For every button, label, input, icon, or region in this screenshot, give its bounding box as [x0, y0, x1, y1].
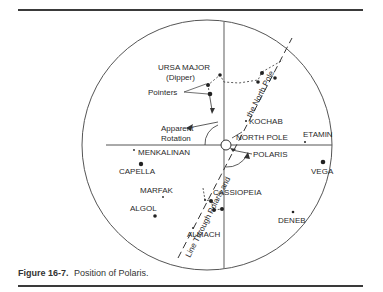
rotation-arrow-upper: [193, 122, 218, 127]
apparent-label: Apparent: [161, 124, 194, 133]
star-mizar: [260, 71, 264, 75]
etamin-label: ETAMIN: [303, 130, 333, 139]
north-pole-label: NORTH POLE: [236, 133, 288, 142]
polaris-diagram: Line Through Polaris and the North Pole …: [0, 0, 383, 292]
rotation-arc-upper: [205, 125, 218, 145]
rotation-label: Rotation: [161, 134, 191, 143]
star-deneb: [292, 211, 295, 214]
figure-number: Figure 16-7.: [18, 268, 69, 278]
star-menkalinan: [133, 149, 135, 151]
star-almach: [192, 227, 194, 229]
ursa-major-constellation: [206, 60, 283, 114]
figure-caption-text: Position of Polaris.: [74, 268, 149, 278]
rotation-arc-lower: [226, 155, 247, 167]
pointers-line-1: [184, 84, 206, 92]
cassiopeia-label: CASSIOPEIA: [213, 188, 262, 197]
menkalinan-label: MENKALINAN: [138, 148, 190, 157]
marfak-label: MARFAK: [140, 186, 174, 195]
kochab-label: KOCHAB: [249, 117, 283, 126]
star-kochab: [245, 120, 247, 122]
star-algol: [153, 214, 157, 218]
pointers-label: Pointers: [148, 88, 177, 97]
capella-label: CAPELLA: [119, 167, 156, 176]
deneb-label: DENEB: [278, 216, 306, 225]
star-capella: [139, 162, 143, 166]
line-label-upper: the North Pole: [245, 69, 276, 119]
algol-label: ALGOL: [130, 204, 157, 213]
figure-caption: Figure 16-7. Position of Polaris.: [18, 268, 149, 278]
star-marfak: [162, 196, 164, 198]
almach-label: ALMACH: [187, 230, 221, 239]
north-pole-marker: [221, 140, 231, 150]
polaris-label: POLARIS: [253, 150, 288, 159]
star-vega: [321, 160, 326, 165]
vega-label: VEGA: [311, 167, 334, 176]
star-etamin: [304, 141, 306, 143]
ursa-major-label: URSA MAJOR: [158, 63, 210, 72]
bottom-rule: [18, 285, 363, 287]
polaris-pointer: [232, 150, 252, 154]
pointers-line-2: [184, 92, 208, 94]
dipper-label: (Dipper): [166, 73, 195, 82]
